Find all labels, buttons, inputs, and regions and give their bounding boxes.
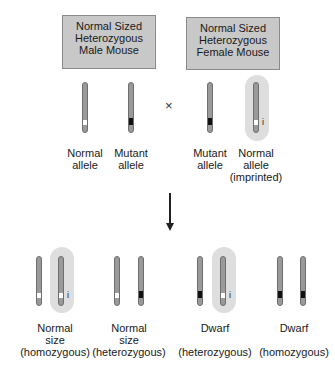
male-title-line-1: Normal Sized bbox=[63, 20, 155, 32]
male-title-line-3: Male Mouse bbox=[63, 44, 155, 56]
mutant-allele-band bbox=[139, 291, 143, 298]
imprint-mark: i bbox=[67, 291, 69, 300]
offspring1-label: Normal size (homozygous) bbox=[15, 322, 95, 358]
offspring3-chromosome-1 bbox=[197, 256, 203, 306]
mutant-allele-band bbox=[198, 291, 202, 298]
spacer bbox=[173, 334, 257, 346]
mutant-allele-band bbox=[301, 291, 305, 298]
offspring3-chromosome-2 bbox=[220, 256, 226, 306]
female-parent-box: Normal Sized Heterozygous Female Mouse bbox=[186, 17, 280, 70]
label-male-mutant-allele: Mutant allele bbox=[91, 147, 171, 171]
mutant-allele-band bbox=[208, 118, 212, 125]
male-normal-chromosome bbox=[82, 82, 88, 133]
normal-allele-band bbox=[37, 293, 41, 298]
label-female-imprinted-allele: Normal allele (imprinted) bbox=[216, 147, 296, 183]
male-title-line-2: Heterozygous bbox=[63, 32, 155, 44]
imprint-mark: i bbox=[262, 118, 264, 127]
mutant-allele-band bbox=[278, 291, 282, 298]
normal-allele-band bbox=[221, 293, 225, 298]
normal-allele-band bbox=[115, 293, 119, 298]
cross-symbol: × bbox=[165, 98, 173, 113]
mutant-allele-band bbox=[129, 118, 133, 125]
offspring4-chromosome-1 bbox=[277, 256, 283, 306]
offspring2-chromosome-2 bbox=[138, 256, 144, 306]
down-arrow-icon bbox=[166, 223, 174, 231]
female-title-line-1: Normal Sized bbox=[187, 22, 279, 34]
offspring4-label: Dwarf (homozygous) bbox=[254, 322, 334, 358]
offspring2-label: Normal size (heterozygous) bbox=[88, 322, 170, 358]
offspring1-chromosome-1 bbox=[36, 256, 42, 306]
imprint-mark: i bbox=[229, 291, 231, 300]
offspring1-chromosome-2 bbox=[58, 256, 64, 306]
normal-allele-band bbox=[254, 120, 258, 125]
female-mutant-chromosome bbox=[207, 82, 213, 133]
female-title-line-3: Female Mouse bbox=[187, 46, 279, 58]
spacer bbox=[254, 334, 334, 346]
normal-allele-band bbox=[59, 293, 63, 298]
offspring2-chromosome-1 bbox=[114, 256, 120, 306]
offspring4-chromosome-2 bbox=[300, 256, 306, 306]
male-mutant-chromosome bbox=[128, 82, 134, 133]
female-imprinted-normal-chromosome bbox=[253, 82, 259, 133]
arrow-shaft bbox=[169, 193, 171, 224]
female-title-line-2: Heterozygous bbox=[187, 34, 279, 46]
male-parent-box: Normal Sized Heterozygous Male Mouse bbox=[62, 15, 156, 69]
offspring3-label: Dwarf (heterozygous) bbox=[173, 322, 257, 358]
normal-allele-band bbox=[83, 120, 87, 125]
